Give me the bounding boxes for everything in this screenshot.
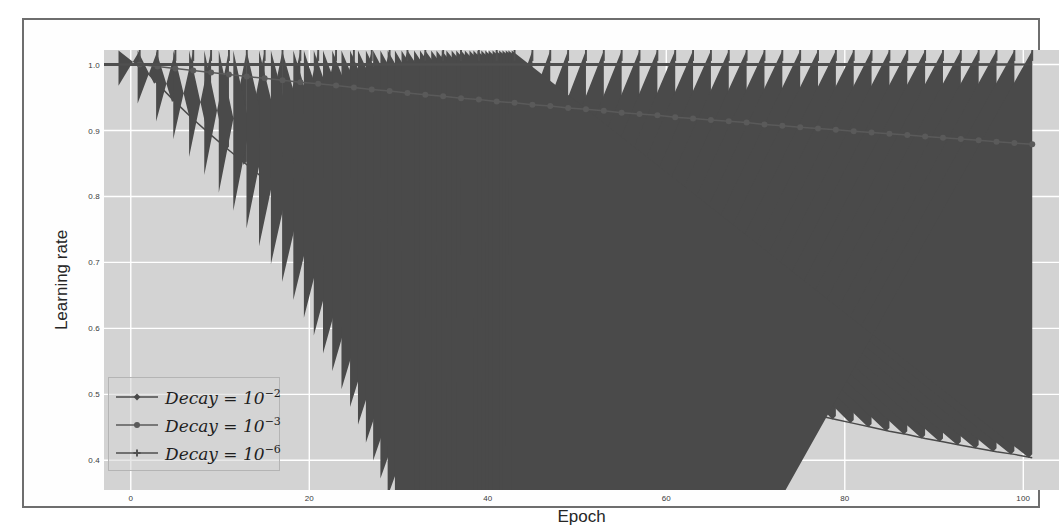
y-tick-label: 0.5 [66,390,100,399]
legend-label: Decay = 10−3 [161,415,281,436]
data-point-marker [833,127,839,133]
data-point-marker [869,129,875,135]
data-point-marker [422,92,428,98]
legend-swatch-diamond [113,388,161,406]
data-point-marker [637,111,643,117]
data-point-marker [619,110,625,116]
data-point-marker [583,106,589,112]
x-tick-label: 100 [1016,494,1030,503]
data-point-marker [761,122,767,128]
data-point-marker [226,71,232,77]
x-axis-title: Epoch [104,507,1059,527]
legend-item-2: Decay = 10−3 [113,411,273,439]
data-point-marker [351,85,357,91]
data-point-marker [886,131,892,137]
data-point-marker [156,50,175,121]
data-point-marker [134,422,140,428]
data-point-marker [315,81,321,87]
data-point-marker [690,116,696,122]
data-point-marker [1011,140,1017,146]
y-tick-label: 1.0 [66,60,100,69]
legend-label: Decay = 10−6 [161,443,281,464]
data-point-marker [387,88,393,94]
data-point-marker [958,136,964,142]
y-tick-label: 0.4 [66,456,100,465]
figure-frame: 1.00.90.80.70.60.50.4 020406080100 Epoch… [22,18,1040,508]
data-point-marker [797,124,803,130]
data-point-marker [404,90,410,96]
data-point-marker [190,67,196,73]
data-point-marker [726,118,732,124]
data-point-marker [369,87,375,93]
data-point-marker [1029,141,1035,147]
data-point-marker [119,50,140,85]
data-point-marker [244,73,250,79]
data-point-marker [297,79,303,85]
data-point-marker [672,114,678,120]
data-point-marker [134,394,141,401]
data-point-marker [494,98,500,104]
data-point-marker [440,93,446,99]
legend-swatch-plus [113,444,161,462]
data-point-marker [104,50,372,65]
data-point-marker [104,50,1014,65]
data-point-marker [262,75,268,81]
data-point-marker [333,83,339,89]
legend-swatch-circle [113,416,161,434]
legend-item-1: Decay = 10−2 [113,383,273,411]
y-axis-title: Learning rate [52,180,72,380]
data-point-marker [458,95,464,101]
data-point-marker [744,120,750,126]
data-point-marker [565,105,571,111]
x-tick-label: 20 [305,494,314,503]
data-point-marker [476,96,482,102]
x-tick-label: 60 [662,494,671,503]
data-point-marker [940,135,946,141]
data-point-marker [994,139,1000,145]
data-point-marker [976,137,982,143]
data-point-marker [904,132,910,138]
data-point-marker [547,103,553,109]
x-tick-label: 80 [840,494,849,503]
data-point-marker [708,117,714,123]
chart-legend: Decay = 10−2Decay = 10−3Decay = 10−6 [108,377,280,471]
data-point-marker [815,126,821,132]
data-point-marker [512,100,518,106]
data-point-marker [529,102,535,108]
data-point-marker [779,123,785,129]
legend-label: Decay = 10−2 [161,387,281,408]
data-point-marker [851,128,857,134]
x-tick-label: 0 [128,494,133,503]
figure-root: 1.00.90.80.70.60.50.4 020406080100 Epoch… [0,0,1064,528]
data-point-marker [172,65,178,71]
legend-item-3: Decay = 10−6 [113,439,273,467]
data-point-marker [133,449,140,456]
data-point-marker [922,133,928,139]
x-tick-label: 40 [483,494,492,503]
data-point-marker [104,50,193,65]
data-point-marker [280,77,286,83]
data-point-marker [601,108,607,114]
data-point-marker [654,112,660,118]
y-tick-label: 0.9 [66,126,100,135]
data-point-marker [208,69,214,75]
